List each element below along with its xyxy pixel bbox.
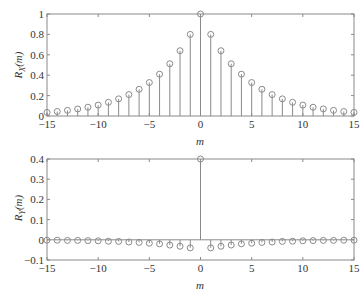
lower-y-label-arg: (m) (12, 194, 25, 210)
lower-x-tick-label: 15 (349, 262, 361, 274)
lower-x-tick-label: 0 (198, 262, 204, 274)
figure: m RX(m) −15−10−505101500.20.40.60.81 m R… (0, 0, 363, 299)
svg-text:RY(m): RY(m) (12, 194, 27, 222)
lower-y-tick-label: 0.3 (30, 173, 44, 185)
upper-y-tick-label: 0.6 (30, 49, 44, 61)
upper-y-axis-label: RX(m) (12, 51, 27, 79)
lower-y-axis-label: RY(m) (12, 194, 27, 222)
upper-x-axis-label: m (196, 135, 204, 147)
upper-x-tick-label: 15 (349, 118, 361, 130)
lower-x-axis-label: m (196, 279, 204, 291)
upper-x-tick-label: 10 (297, 118, 309, 130)
svg-text:RX(m): RX(m) (12, 51, 27, 79)
lower-x-tick-label: −5 (143, 262, 155, 274)
lower-y-tick-label: 0.2 (30, 193, 44, 205)
lower-x-tick-label: −10 (90, 262, 108, 274)
lower-y-tick-label: 0.4 (30, 153, 44, 165)
lower-y-tick-label: 0.1 (30, 214, 44, 226)
upper-x-tick-label: −5 (143, 118, 155, 130)
upper-y-tick-label: 1 (39, 8, 45, 20)
lower-y-tick-label: −0.1 (24, 254, 44, 266)
upper-y-label-arg: (m) (12, 51, 25, 67)
lower-plot-autocorrelation-y: m RY(m) −15−10−5051015−0.100.10.20.30.4 (12, 153, 360, 291)
upper-x-tick-label: 0 (198, 118, 204, 130)
upper-y-tick-label: 0.2 (30, 90, 44, 102)
upper-x-tick-label: −10 (90, 118, 108, 130)
upper-x-tick-label: 5 (249, 118, 255, 130)
upper-plot-autocorrelation-x: m RX(m) −15−10−505101500.20.40.60.81 (12, 8, 360, 147)
upper-y-tick-label: 0.4 (30, 69, 44, 81)
upper-y-tick-label: 0.8 (30, 28, 44, 40)
lower-x-tick-label: 5 (249, 262, 255, 274)
lower-x-tick-label: 10 (297, 262, 309, 274)
